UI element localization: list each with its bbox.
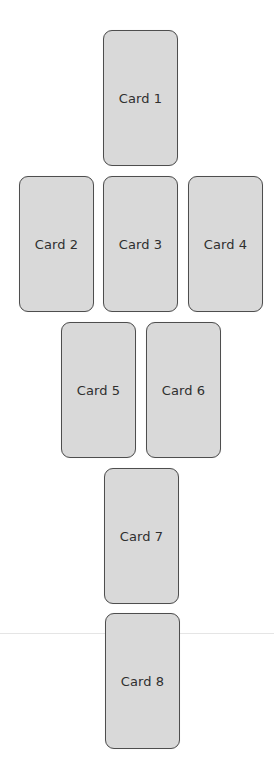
card-2: Card 2 [19, 176, 94, 312]
card-label: Card 5 [77, 383, 120, 398]
card-label: Card 2 [35, 237, 78, 252]
card-label: Card 3 [119, 237, 162, 252]
card-label: Card 8 [121, 674, 164, 689]
card-1: Card 1 [103, 30, 178, 166]
card-4: Card 4 [188, 176, 263, 312]
card-label: Card 6 [162, 383, 205, 398]
card-8: Card 8 [105, 613, 180, 749]
card-3: Card 3 [103, 176, 178, 312]
card-7: Card 7 [104, 468, 179, 604]
card-5: Card 5 [61, 322, 136, 458]
card-label: Card 1 [119, 91, 162, 106]
card-label: Card 4 [204, 237, 247, 252]
card-6: Card 6 [146, 322, 221, 458]
card-label: Card 7 [120, 529, 163, 544]
